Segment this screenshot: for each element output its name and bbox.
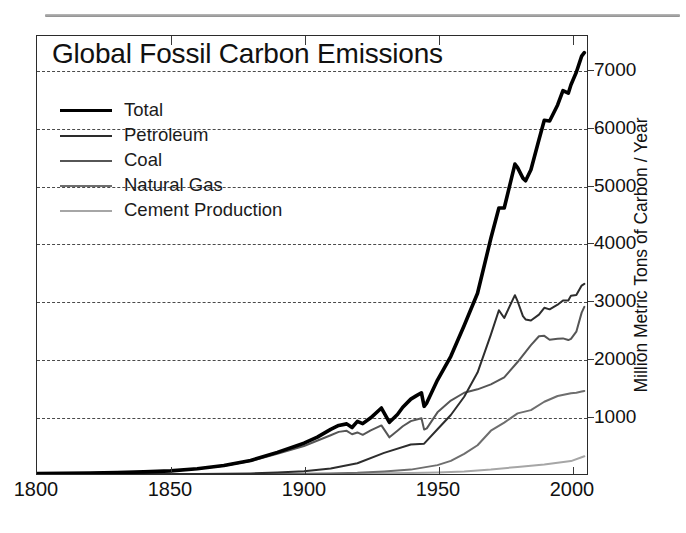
axis-tick-mark (305, 467, 306, 474)
y-axis-tick-mark (588, 243, 594, 244)
legend-item-natural-gas[interactable]: Natural Gas (60, 173, 282, 198)
legend-line-swatch (60, 109, 112, 112)
x-tick-label: 2000 (550, 478, 595, 501)
legend-item-total[interactable]: Total (60, 98, 282, 123)
y-axis-tick-mark (588, 70, 594, 71)
axis-tick-mark (573, 36, 574, 45)
chart-figure: Global Fossil Carbon Emissions TotalPetr… (0, 0, 686, 533)
axis-tick-mark (171, 467, 172, 474)
legend-item-petroleum[interactable]: Petroleum (60, 123, 282, 148)
x-tick-label: 1800 (14, 478, 59, 501)
legend-line-swatch (60, 185, 112, 187)
y-axis-tick-mark (588, 359, 594, 360)
x-tick-label: 1850 (148, 478, 193, 501)
legend-line-swatch (60, 160, 112, 162)
chart-legend: TotalPetroleumCoalNatural GasCement Prod… (60, 98, 282, 223)
series-line-natural-gas (37, 391, 584, 474)
legend-item-cement-production[interactable]: Cement Production (60, 198, 282, 223)
legend-line-swatch (60, 210, 112, 212)
legend-item-label: Petroleum (124, 126, 208, 145)
x-axis-tick-labels: 18001850190019502000 (0, 478, 686, 508)
x-tick-label: 1950 (416, 478, 461, 501)
figure-page: Global Fossil Carbon Emissions TotalPetr… (0, 0, 686, 533)
y-axis-tick-mark (588, 301, 594, 302)
y-axis-tick-mark (588, 417, 594, 418)
legend-item-label: Coal (124, 151, 162, 170)
y-axis-tick-mark (588, 186, 594, 187)
axis-tick-mark (439, 467, 440, 474)
y-axis-tick-mark (588, 128, 594, 129)
legend-line-swatch (60, 135, 112, 137)
chart-title: Global Fossil Carbon Emissions (52, 38, 443, 70)
legend-item-label: Total (124, 101, 163, 120)
series-line-coal (37, 307, 584, 474)
axis-tick-mark (573, 467, 574, 474)
legend-item-label: Natural Gas (124, 176, 223, 195)
y-axis-title: Million Metric Tons of Carbon / Year (628, 35, 654, 475)
x-tick-label: 1900 (282, 478, 327, 501)
legend-item-coal[interactable]: Coal (60, 148, 282, 173)
legend-item-label: Cement Production (124, 201, 282, 220)
